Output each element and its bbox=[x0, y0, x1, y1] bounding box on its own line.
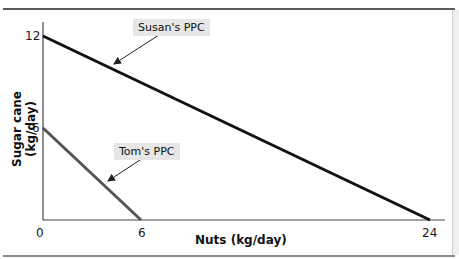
susan-ppc-line bbox=[43, 36, 430, 220]
x-tick-24: 24 bbox=[422, 226, 437, 240]
x-tick-0: 0 bbox=[36, 226, 44, 240]
tom-ppc-callout: Tom's PPC bbox=[114, 143, 180, 160]
x-tick-6: 6 bbox=[138, 226, 146, 240]
susan-ppc-callout: Susan's PPC bbox=[133, 19, 210, 36]
y-axis-label: Sugar cane (kg/day) bbox=[10, 69, 38, 189]
y-tick-12: 12 bbox=[25, 29, 40, 43]
tom-ppc-line bbox=[43, 128, 141, 220]
susan-arrow bbox=[114, 33, 162, 64]
x-axis-label: Nuts (kg/day) bbox=[195, 233, 287, 247]
tom-arrow bbox=[108, 158, 143, 181]
